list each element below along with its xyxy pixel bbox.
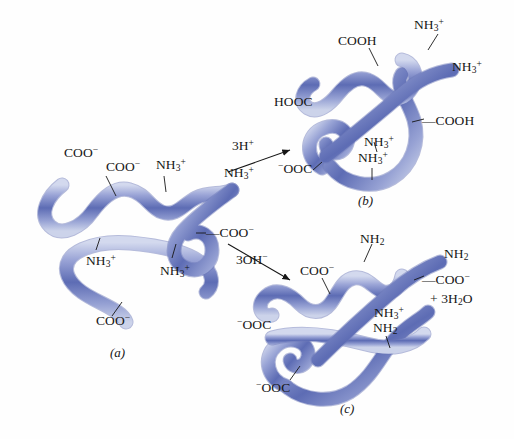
label-c-ooc-2: −OOC: [256, 381, 290, 395]
label-a-coo-4: COO−: [96, 314, 130, 328]
ionization-states-figure: 3H+ 3OH− COO− COO− NH3+ NH3+ —COO− NH3+ …: [0, 0, 514, 439]
label-a-nh3-4: NH3+: [160, 264, 190, 278]
label-b-ooc: −OOC: [278, 162, 312, 176]
figure-canvas: [0, 0, 514, 439]
label-c-ooc-1: −OOC: [237, 318, 271, 332]
label-c-nh2-2: NH2: [444, 247, 469, 261]
chain-a: [45, 176, 232, 322]
label-b-nh3-1: NH3+: [414, 18, 444, 32]
label-b-nh3-4: NH3+: [358, 151, 388, 165]
label-c-nh3: NH3+: [374, 306, 404, 320]
label-c-coo-2: —COO−: [422, 273, 470, 287]
label-a-coo-3: —COO−: [206, 226, 254, 240]
reaction-label-deprotonation: 3OH−: [236, 252, 268, 268]
label-a-nh3-2: NH3+: [224, 166, 254, 180]
reaction-label-protonation: 3H+: [232, 138, 254, 154]
label-b-nh3-3: NH3+: [364, 135, 394, 149]
label-a-nh3-1: NH3+: [156, 158, 186, 172]
label-a-coo-2: COO−: [106, 160, 140, 174]
label-b-cooh-2: —COOH: [422, 114, 474, 128]
panel-key-a: (a): [110, 345, 125, 361]
label-b-nh3-2: NH3+: [452, 60, 482, 74]
label-a-coo-1: COO−: [64, 146, 98, 160]
label-c-water: + 3H2O: [430, 292, 473, 306]
label-c-coo-1: COO−: [300, 264, 334, 278]
panel-key-b: (b): [358, 193, 373, 209]
label-a-nh3-3: NH3+: [86, 254, 116, 268]
chain-c: [260, 244, 440, 399]
label-c-nh2-1: NH2: [360, 232, 385, 246]
label-c-nh2-3: NH2: [373, 321, 398, 335]
panel-key-c: (c): [340, 401, 354, 417]
label-b-hooc: HOOC: [274, 95, 313, 109]
label-b-cooh-1: COOH: [338, 34, 377, 48]
